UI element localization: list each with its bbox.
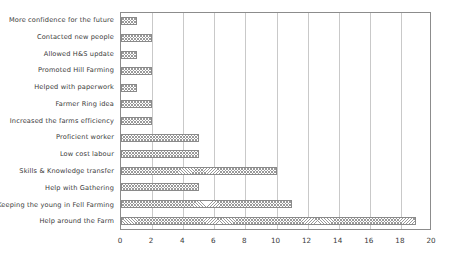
x-tick-label: 4 — [180, 236, 185, 245]
category-label: More confidence for the future — [9, 17, 117, 24]
bar-row — [121, 30, 430, 47]
plot-area — [120, 12, 431, 230]
bar — [121, 100, 152, 108]
bar-row — [121, 179, 430, 196]
horizontal-bar-chart: More confidence for the futureContacted … — [0, 0, 453, 264]
bar-row — [121, 146, 430, 163]
category-label: Promoted Hill Farming — [38, 67, 117, 74]
bar — [121, 200, 292, 208]
category-label: Low cost labour — [60, 151, 117, 158]
x-tick-label: 8 — [242, 236, 247, 245]
x-tick-label: 0 — [118, 236, 123, 245]
bar — [121, 134, 199, 142]
bar — [121, 17, 137, 25]
bar-row — [121, 113, 430, 130]
bar-row — [121, 46, 430, 63]
x-tick-label: 16 — [364, 236, 373, 245]
category-label: Allowed H&S update — [44, 51, 117, 58]
bars-layer — [121, 13, 430, 229]
x-axis: 02468101214161820 — [120, 231, 431, 253]
bar — [121, 217, 416, 225]
x-tick-label: 12 — [302, 236, 311, 245]
x-tick-label: 2 — [149, 236, 154, 245]
bar — [121, 150, 199, 158]
x-tick-label: 6 — [211, 236, 216, 245]
category-label: Farmer Ring idea — [56, 101, 118, 108]
category-label: Help with Gathering — [45, 185, 117, 192]
category-label: Contacted new people — [37, 34, 117, 41]
x-tick-label: 14 — [333, 236, 342, 245]
category-label: Helped with paperwork — [34, 84, 117, 91]
category-label: Skills & Knowledge transfer — [19, 168, 117, 175]
bar — [121, 51, 137, 59]
bar-row — [121, 63, 430, 80]
bar-row — [121, 212, 430, 229]
bar — [121, 183, 199, 191]
bar — [121, 67, 152, 75]
x-tick-label: 18 — [395, 236, 404, 245]
bar-row — [121, 96, 430, 113]
bar — [121, 167, 277, 175]
bar-row — [121, 196, 430, 213]
bar-row — [121, 162, 430, 179]
bar-row — [121, 129, 430, 146]
category-axis: More confidence for the futureContacted … — [0, 12, 117, 230]
category-label: Keeping the young in Fell Farming — [0, 202, 117, 209]
bar — [121, 117, 152, 125]
bar-row — [121, 79, 430, 96]
bar-row — [121, 13, 430, 30]
x-tick-label: 20 — [426, 236, 435, 245]
bar — [121, 34, 152, 42]
category-label: Proficient worker — [56, 134, 117, 141]
category-label: Increased the farms efficiency — [10, 118, 117, 125]
x-tick-label: 10 — [271, 236, 280, 245]
bar — [121, 84, 137, 92]
category-label: Help around the Farm — [39, 218, 117, 225]
